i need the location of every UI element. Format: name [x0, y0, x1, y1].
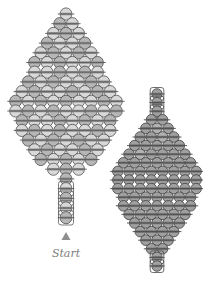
- small-leaf-chart: [110, 88, 203, 273]
- beading-pattern-page: Start: [0, 0, 203, 283]
- large-leaf-chart: [7, 8, 124, 225]
- start-marker-triangle: [62, 232, 71, 240]
- leaf-charts-layer: [7, 8, 203, 273]
- start-label: Start: [52, 247, 81, 260]
- bead-pattern-diagram: Start: [0, 0, 203, 283]
